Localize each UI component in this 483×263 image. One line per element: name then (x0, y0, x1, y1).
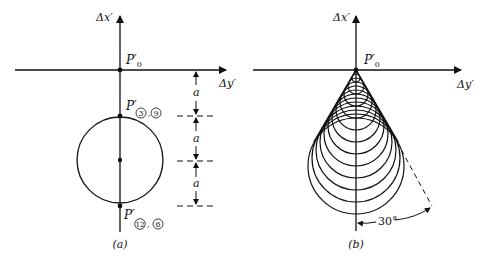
dimension-label-2: a (193, 132, 200, 145)
svg-text:3: 3 (138, 109, 143, 118)
caption-b: (b) (348, 238, 364, 251)
top-point (118, 114, 123, 119)
center-point (118, 158, 122, 162)
axis-y-label: Δy′ (456, 78, 474, 91)
svg-text:9: 9 (153, 109, 158, 118)
angle-label: 30° (378, 215, 398, 228)
angle-arc (395, 208, 430, 220)
axis-x-label: Δx′ (95, 11, 113, 24)
angle-arc-left (358, 222, 376, 223)
figure-a: Δx′ Δy′ P′0 P′ 3 , 9 P′ 12 , 6 (15, 11, 236, 251)
angle-reference-line (397, 142, 432, 206)
bottom-point-label: P′ 12 , 6 (123, 208, 163, 229)
bottom-point (118, 204, 123, 209)
svg-text:P′: P′ (125, 99, 137, 113)
svg-text:12: 12 (136, 221, 145, 229)
svg-text:6: 6 (155, 220, 160, 229)
caption-a: (a) (112, 238, 127, 251)
origin-label: P′0 (125, 53, 142, 69)
svg-text:,: , (147, 220, 150, 229)
origin-label: P′0 (363, 53, 380, 69)
axis-x-label: Δx′ (332, 11, 350, 24)
figure-b: Δx′ Δy′ P′0 30° (b) (253, 11, 474, 251)
diagram-canvas: Δx′ Δy′ P′0 P′ 3 , 9 P′ 12 , 6 (0, 0, 483, 263)
top-point-label: P′ 3 , 9 (125, 99, 161, 118)
dimension-label-3: a (193, 177, 200, 190)
axis-y-label: Δy′ (218, 77, 236, 90)
dimension-label-1: a (193, 86, 200, 99)
svg-text:P′: P′ (123, 208, 135, 222)
origin-point (118, 68, 123, 73)
svg-text:,: , (148, 109, 151, 118)
